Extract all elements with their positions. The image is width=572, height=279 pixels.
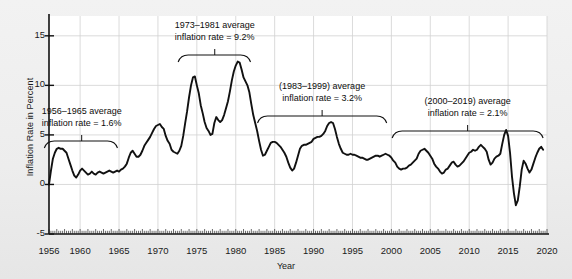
y-tick-label-5: 5 (5, 129, 45, 139)
y-tick-label-neg5: -5 (5, 228, 45, 238)
x-axis-title: Year (0, 261, 572, 271)
annot-1956-1965-line1: 1956–1965 average (42, 106, 122, 118)
y-tick-label-15: 15 (5, 30, 45, 40)
inflation-rate-chart-figure: Inflation Rate in Percent Year -5051015 … (0, 0, 572, 279)
chart-text-layer: Inflation Rate in Percent Year -5051015 … (0, 0, 572, 279)
y-tick-label-0: 0 (5, 178, 45, 188)
annot-1956-1965: 1956–1965 averageinflation rate = 1.6% (42, 106, 122, 129)
annot-1983-1999-line1: (1983–1999) average (279, 81, 365, 93)
annot-2000-2019-line1: (2000–2019) average (425, 96, 511, 108)
annot-1983-1999-line2: inflation rate = 3.2% (279, 93, 365, 105)
annot-1973-1981: 1973–1981 averageinflation rate = 9.2% (175, 20, 255, 43)
annot-2000-2019-line2: inflation rate = 2.1% (425, 108, 511, 120)
annot-2000-2019: (2000–2019) averageinflation rate = 2.1% (425, 96, 511, 119)
y-tick-label-10: 10 (5, 79, 45, 89)
annot-1973-1981-line2: inflation rate = 9.2% (175, 32, 255, 44)
annot-1973-1981-line1: 1973–1981 average (175, 20, 255, 32)
annot-1983-1999: (1983–1999) averageinflation rate = 3.2% (279, 81, 365, 104)
annot-1956-1965-line2: inflation rate = 1.6% (42, 118, 122, 130)
x-tick-label-2020: 2020 (517, 245, 572, 256)
